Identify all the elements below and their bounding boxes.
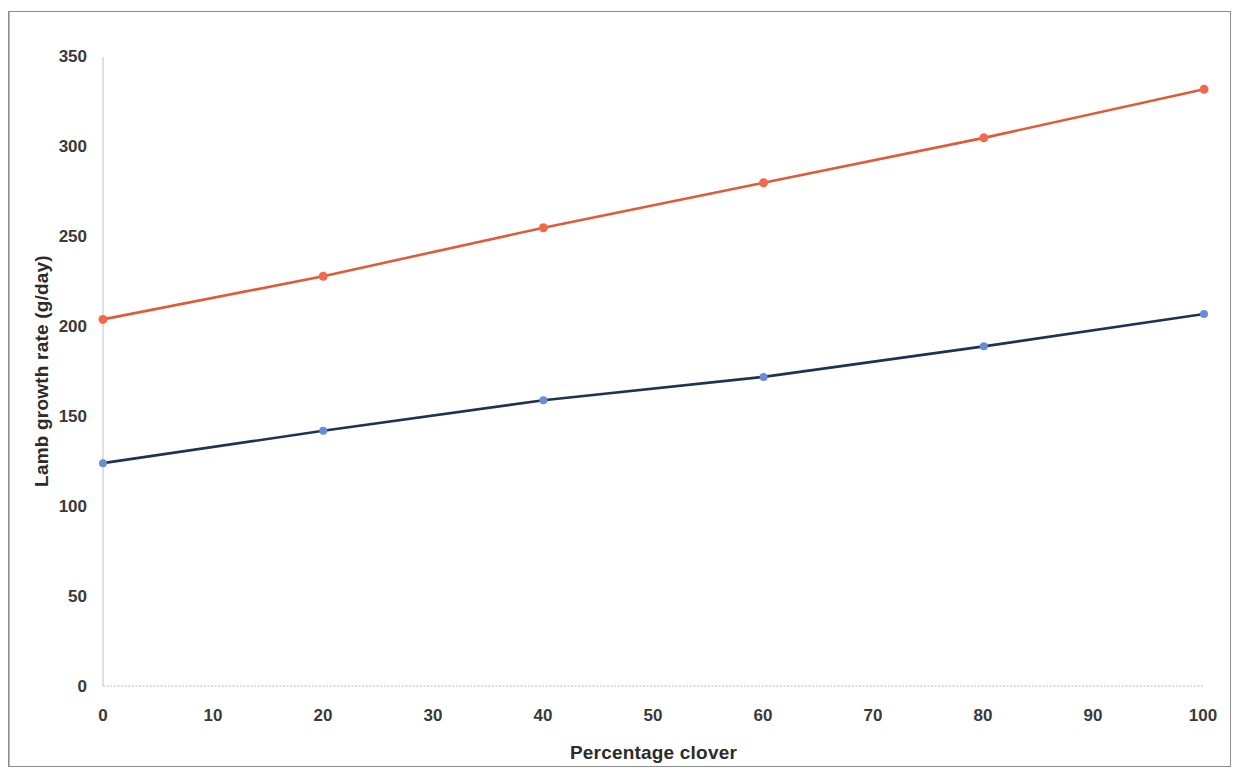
y-axis-title: Lamb growth rate (g/day): [31, 211, 53, 531]
y-tick-label-300: 300: [35, 137, 87, 157]
series-line-upper-series: [103, 89, 1204, 319]
data-point[interactable]: [319, 272, 328, 281]
x-tick-label-70: 70: [843, 706, 903, 726]
x-tick-label-50: 50: [623, 706, 683, 726]
x-tick-label-90: 90: [1063, 706, 1123, 726]
data-point[interactable]: [759, 178, 768, 187]
chart-plot-area: [0, 0, 1243, 780]
x-tick-label-10: 10: [183, 706, 243, 726]
data-point[interactable]: [539, 223, 548, 232]
y-tick-label-350: 350: [35, 47, 87, 67]
y-tick-label-50: 50: [35, 587, 87, 607]
series-line-lower-series: [103, 314, 1204, 463]
data-point[interactable]: [99, 459, 107, 467]
series-upper: [99, 85, 1209, 324]
x-tick-label-60: 60: [733, 706, 793, 726]
x-tick-label-40: 40: [513, 706, 573, 726]
x-axis-title: Percentage clover: [103, 742, 1204, 764]
x-tick-label-20: 20: [293, 706, 353, 726]
data-point[interactable]: [760, 373, 768, 381]
x-tick-label-80: 80: [953, 706, 1013, 726]
series-lower: [99, 310, 1208, 467]
data-point[interactable]: [319, 427, 327, 435]
data-point[interactable]: [1200, 310, 1208, 318]
page-canvas: 350 300 250 200 150 100 50 0 0 10 20 30 …: [0, 0, 1243, 780]
x-tick-label-0: 0: [73, 706, 133, 726]
y-tick-label-0: 0: [35, 677, 87, 697]
data-point[interactable]: [99, 315, 108, 324]
x-tick-label-30: 30: [403, 706, 463, 726]
x-tick-label-100: 100: [1173, 706, 1233, 726]
data-point[interactable]: [980, 342, 988, 350]
data-point[interactable]: [979, 133, 988, 142]
data-point[interactable]: [539, 396, 547, 404]
chart-figure: 350 300 250 200 150 100 50 0 0 10 20 30 …: [0, 0, 1243, 780]
data-point[interactable]: [1200, 85, 1209, 94]
